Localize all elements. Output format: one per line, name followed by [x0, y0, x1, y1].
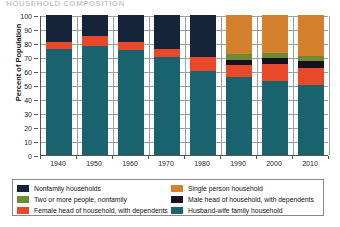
bar-segment	[118, 15, 144, 42]
y-axis-tick	[34, 30, 38, 31]
bar-segment	[262, 53, 288, 59]
y-axis-tick-label: 10	[24, 139, 32, 146]
bar-segment	[118, 42, 144, 50]
legend-item[interactable]: Single person household	[171, 183, 314, 194]
gridline-vertical	[329, 16, 330, 155]
y-axis-tick-label: 90	[24, 27, 32, 34]
legend-item-label: Male head of household, with dependents	[188, 196, 314, 203]
bar-2010	[298, 15, 324, 155]
bar-1980	[190, 15, 216, 155]
y-axis-tick	[34, 86, 38, 87]
cropped-header-text: HOUSEHOLD COMPOSITION	[6, 0, 125, 7]
bar-segment	[46, 42, 72, 49]
bar-segment	[118, 50, 144, 155]
x-axis-tick-label: 2010	[292, 160, 328, 167]
y-axis-tick	[34, 44, 38, 45]
bar-segment	[154, 15, 180, 49]
bar-1970	[154, 15, 180, 155]
x-axis-tick-label: 1980	[184, 160, 220, 167]
y-axis-tick	[34, 156, 38, 157]
bar-segment	[190, 57, 216, 71]
bar-segment	[82, 15, 108, 36]
bar-segment	[190, 15, 216, 57]
y-axis-tick-label: 30	[24, 111, 32, 118]
legend-swatch-icon	[171, 207, 183, 214]
bar-segment	[298, 56, 324, 62]
legend-column-right: Single person householdMale head of hous…	[171, 183, 314, 216]
x-axis-tick	[112, 156, 113, 159]
legend-item-label: Nonfamily households	[34, 185, 101, 192]
bar-segment	[298, 85, 324, 155]
x-axis-tick	[148, 156, 149, 159]
bar-segment	[82, 36, 108, 46]
y-axis-labels: 0102030405060708090100	[0, 16, 38, 156]
y-axis-tick	[34, 128, 38, 129]
y-axis-tick-label: 80	[24, 41, 32, 48]
x-axis-tick-label: 1940	[40, 160, 76, 167]
bar-segment	[46, 15, 72, 42]
bar-segment	[262, 15, 288, 53]
x-axis-tick	[184, 156, 185, 159]
x-axis-tick	[256, 156, 257, 159]
bar-segment	[190, 71, 216, 155]
legend-item-label: Husband-wife family household	[188, 207, 282, 214]
legend-item[interactable]: Two or more people, nonfamily	[17, 194, 168, 205]
legend-item-label: Female head of household, with dependent…	[34, 207, 168, 214]
y-axis-tick-label: 60	[24, 69, 32, 76]
bar-1960	[118, 15, 144, 155]
bar-segment	[82, 46, 108, 155]
bar-segment	[226, 54, 252, 60]
x-axis-tick	[328, 156, 329, 159]
legend-item[interactable]: Husband-wife family household	[171, 205, 314, 216]
bar-segment	[262, 64, 288, 81]
bar-1940	[46, 15, 72, 155]
y-axis-tick-label: 0	[28, 153, 32, 160]
bar-segment	[154, 49, 180, 57]
bar-2000	[262, 15, 288, 155]
y-axis-tick	[34, 58, 38, 59]
bar-segment	[46, 49, 72, 155]
bar-segment	[226, 77, 252, 155]
bar-segment	[154, 57, 180, 155]
bar-1990	[226, 15, 252, 155]
legend-item[interactable]: Nonfamily households	[17, 183, 168, 194]
bar-1950	[82, 15, 108, 155]
bar-segment	[262, 58, 288, 64]
bar-group	[41, 16, 328, 155]
plot-area	[40, 16, 328, 156]
legend-swatch-icon	[171, 196, 183, 203]
legend-item-label: Single person household	[188, 185, 263, 192]
bar-segment	[226, 65, 252, 76]
x-axis-tick-label: 1970	[148, 160, 184, 167]
y-axis-tick	[34, 72, 38, 73]
x-axis-tick-label: 1950	[76, 160, 112, 167]
x-axis-tick	[292, 156, 293, 159]
legend-swatch-icon	[171, 185, 183, 192]
y-axis-tick	[34, 114, 38, 115]
y-axis-tick	[34, 142, 38, 143]
y-axis-tick	[34, 16, 38, 17]
legend-swatch-icon	[17, 185, 29, 192]
legend-item[interactable]: Female head of household, with dependent…	[17, 205, 168, 216]
y-axis-tick-label: 50	[24, 83, 32, 90]
y-axis-tick-label: 20	[24, 125, 32, 132]
y-axis-tick-label: 40	[24, 97, 32, 104]
legend-swatch-icon	[17, 207, 29, 214]
x-axis-tick	[76, 156, 77, 159]
bar-segment	[262, 81, 288, 155]
bar-segment	[298, 15, 324, 56]
legend-item-label: Two or more people, nonfamily	[34, 196, 127, 203]
y-axis-tick-label: 100	[20, 13, 32, 20]
bar-segment	[298, 61, 324, 68]
bar-segment	[226, 60, 252, 66]
legend-item[interactable]: Male head of household, with dependents	[171, 194, 314, 205]
x-axis-tick	[220, 156, 221, 159]
x-axis-tick	[40, 156, 41, 159]
x-axis-labels: 19401950196019701980199020002010	[40, 158, 328, 172]
x-axis-tick-label: 1960	[112, 160, 148, 167]
y-axis-tick-label: 70	[24, 55, 32, 62]
legend-column-left: Nonfamily householdsTwo or more people, …	[17, 183, 168, 216]
bar-segment	[298, 68, 324, 85]
x-axis-tick-label: 2000	[256, 160, 292, 167]
x-axis-tick-label: 1990	[220, 160, 256, 167]
